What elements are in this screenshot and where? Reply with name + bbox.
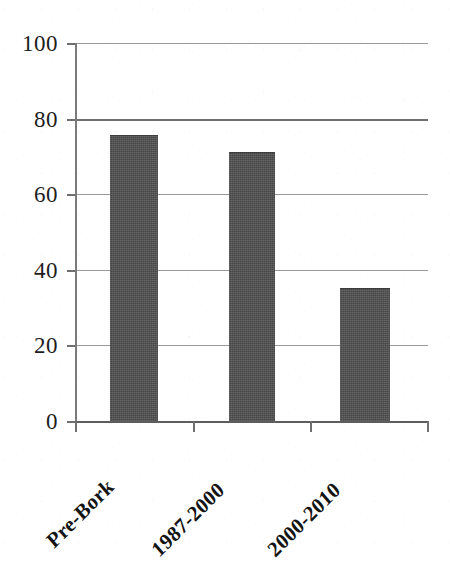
x-tick-mark-0 xyxy=(75,421,77,432)
gridline-80 xyxy=(75,119,428,121)
y-tick-label-0: 0 xyxy=(2,410,58,433)
gridline-100 xyxy=(75,43,428,44)
y-tick-mark-0 xyxy=(67,421,75,423)
y-tick-mark-60 xyxy=(67,194,75,196)
y-tick-label-80: 80 xyxy=(2,108,58,131)
y-tick-mark-80 xyxy=(67,119,75,121)
x-category-label-1987-2000: 1987-2000 xyxy=(148,479,228,561)
y-tick-mark-40 xyxy=(67,270,75,272)
plot-area xyxy=(75,43,428,421)
bar-2000-2010 xyxy=(340,288,390,421)
y-tick-mark-100 xyxy=(67,43,75,45)
x-category-label-pre-bork: Pre-Bork xyxy=(43,475,118,552)
y-tick-label-40: 40 xyxy=(2,259,58,282)
y-tick-label-60: 60 xyxy=(2,183,58,206)
x-tick-mark-2 xyxy=(310,421,312,432)
y-axis-line xyxy=(75,43,77,423)
x-tick-mark-3 xyxy=(427,421,429,432)
gridline-0-baseline xyxy=(75,421,428,423)
y-tick-label-100: 100 xyxy=(2,32,58,55)
bar-1987-2000 xyxy=(229,152,275,421)
x-tick-mark-1 xyxy=(193,421,195,432)
y-tick-label-20: 20 xyxy=(2,334,58,357)
x-category-label-2000-2010: 2000-2010 xyxy=(264,479,344,561)
bar-pre-bork xyxy=(110,135,158,421)
y-tick-mark-20 xyxy=(67,345,75,347)
